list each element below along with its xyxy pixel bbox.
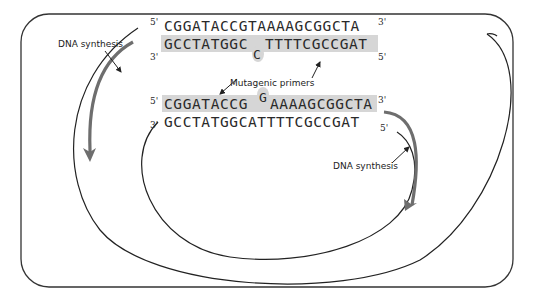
bottom-strand-3prime: 3' — [150, 120, 158, 130]
top-strand-5prime: 5' — [150, 17, 158, 27]
bottom-strand-sequence: GCCTATGGCATTTTCGCCGAT — [164, 114, 360, 130]
mutagenesis-diagram: 5' CGGATACCGTAAAAGCGGCTA 3' 3' GCCTATGGC… — [0, 0, 534, 300]
top-primer-5prime: 5' — [150, 96, 158, 106]
left-dna-synthesis-label: DNA synthesis — [58, 39, 123, 49]
bottom-strand-5prime: 5' — [380, 123, 388, 133]
top-strand-sequence: CGGATACCGTAAAAGCGGCTA — [164, 18, 360, 34]
top-primer-right: AAAAGCGGCTA — [270, 96, 373, 112]
top-strand-3prime: 3' — [378, 17, 386, 27]
bottom-primer-right: TTTTCGCCGAT — [265, 36, 368, 52]
top-primer-left: CGGATACCG — [164, 96, 248, 112]
bottom-primer-left: GCCTATGGC — [164, 36, 248, 52]
inner-strand-curve — [142, 122, 415, 259]
mismatch-base-c: C — [253, 47, 261, 62]
bottom-primer-3prime: 3' — [150, 52, 158, 62]
right-synthesis-pointer — [392, 147, 409, 163]
mismatch-base-g: G — [259, 90, 267, 105]
outer-strand-curve — [74, 28, 511, 284]
mutagenic-primers-label: Mutagenic primers — [230, 78, 315, 88]
top-primer-3prime: 3' — [378, 95, 386, 105]
primers-pointer-up — [312, 62, 320, 78]
bottom-primer-5prime: 5' — [378, 52, 386, 62]
right-synthesis-arrowhead — [404, 199, 417, 211]
right-dna-synthesis-label: DNA synthesis — [333, 161, 398, 171]
